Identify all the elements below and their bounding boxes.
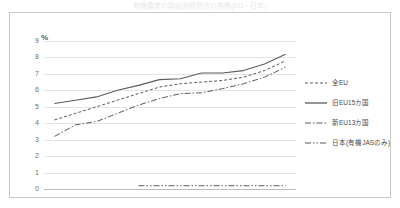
legend: 全EU旧EU15カ国新EU13カ国日本(有機JASのみ) — [305, 75, 400, 155]
series-line — [55, 61, 286, 120]
legend-item[interactable]: 日本(有機JASのみ) — [305, 135, 400, 150]
y-axis-tick-label: 6 — [23, 86, 39, 93]
y-axis-tick-label: 8 — [23, 53, 39, 60]
legend-label: 日本(有機JASのみ) — [332, 139, 390, 147]
plot-area: 9876543210 20052006200720082009201020112… — [44, 41, 296, 189]
x-axis-line — [44, 189, 296, 190]
legend-swatch-icon — [305, 119, 327, 127]
y-axis-tick-label: 9 — [23, 37, 39, 44]
y-axis-tick-label: 3 — [23, 136, 39, 143]
y-axis-tick-label: 0 — [23, 185, 39, 192]
legend-swatch-icon — [305, 79, 327, 87]
legend-item[interactable]: 旧EU15カ国 — [305, 95, 400, 110]
legend-swatch-icon — [305, 139, 327, 147]
y-axis-tick-label: 1 — [23, 169, 39, 176]
legend-label: 新EU13カ国 — [332, 119, 369, 127]
legend-label: 旧EU15カ国 — [332, 99, 369, 107]
y-axis-tick-label: 7 — [23, 70, 39, 77]
chart-screenshot: 有機農業の取組面積割合の推移(EU・日本) % 9876543210 20052… — [0, 0, 400, 208]
y-axis-tick-label: 2 — [23, 152, 39, 159]
legend-label: 全EU — [332, 79, 348, 87]
chart-title: 有機農業の取組面積割合の推移(EU・日本) — [60, 0, 340, 11]
series-layer — [44, 41, 296, 189]
legend-swatch-icon — [305, 99, 327, 107]
legend-item[interactable]: 新EU13カ国 — [305, 115, 400, 130]
y-axis-tick-label: 5 — [23, 103, 39, 110]
chart-frame: % 9876543210 200520062007200820092010201… — [9, 12, 391, 198]
legend-item[interactable]: 全EU — [305, 75, 400, 90]
y-axis-tick-label: 4 — [23, 119, 39, 126]
series-line — [55, 67, 286, 136]
